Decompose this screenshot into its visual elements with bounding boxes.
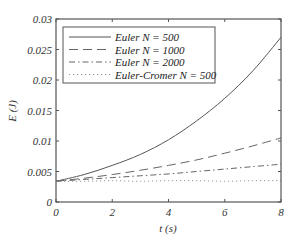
- x-tick-label: 0: [53, 206, 59, 218]
- y-axis-label: E (J): [6, 100, 19, 123]
- legend: Euler N = 500Euler N = 1000Euler N = 200…: [63, 27, 217, 83]
- legend-item-label: Euler N = 1000: [114, 44, 185, 56]
- series-line-euler-cromer-n-500: [56, 181, 281, 182]
- x-tick-label: 2: [110, 206, 116, 218]
- legend-item-label: Euler N = 2000: [114, 56, 185, 68]
- x-tick-label: 6: [222, 206, 228, 218]
- y-tick-label: 0.02: [33, 74, 53, 86]
- y-tick-label: 0.015: [27, 105, 52, 117]
- x-tick-label: 8: [278, 206, 284, 218]
- energy-chart: 0246800.0050.010.0150.020.0250.03 Euler …: [0, 0, 298, 242]
- y-tick-label: 0.005: [27, 166, 52, 178]
- y-tick-label: 0.01: [33, 135, 52, 147]
- x-axis-label: t (s): [159, 222, 177, 235]
- y-tick-label: 0: [47, 196, 53, 208]
- y-tick-label: 0.03: [33, 13, 53, 25]
- x-tick-label: 4: [166, 206, 172, 218]
- y-tick-label: 0.025: [27, 44, 52, 56]
- legend-item-label: Euler-Cromer N = 500: [114, 69, 217, 81]
- series-line-euler-n-1000: [56, 138, 281, 181]
- legend-item-label: Euler N = 500: [114, 31, 179, 43]
